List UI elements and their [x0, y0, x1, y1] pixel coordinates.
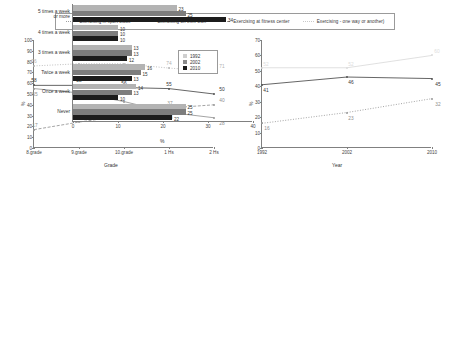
bar-value-label: 10 — [119, 32, 125, 37]
x-tick-mark — [79, 147, 80, 149]
bar-x-axis-title: % — [160, 138, 164, 144]
data-label: 32 — [435, 101, 440, 106]
bar-value-label: 13 — [133, 91, 139, 96]
bar-category-label: 4 times a week — [0, 31, 73, 36]
bar-group: 5 times a week or more232534 — [73, 4, 252, 24]
plot-area: 0102030405060701992200220105252604146451… — [261, 40, 431, 148]
bar-category-label: Never — [0, 109, 73, 114]
bar-1992 — [73, 84, 136, 89]
data-label: 41 — [263, 87, 268, 92]
x-tick-mark — [432, 147, 433, 149]
bar-2002 — [73, 31, 118, 36]
y-tick-mark — [260, 86, 262, 87]
bar-value-label: 13 — [133, 51, 139, 56]
y-tick-mark — [260, 55, 262, 56]
bar-value-label: 22 — [173, 116, 179, 121]
y-tick-mark — [32, 116, 34, 117]
grade-y-axis-title: % — [20, 102, 26, 106]
data-point — [261, 122, 263, 124]
y-tick-mark — [260, 117, 262, 118]
data-point — [261, 67, 263, 69]
bar-1992 — [73, 45, 132, 50]
plot-area: 0102030405 times a week or more2325344 t… — [72, 4, 252, 122]
y-tick-mark — [260, 71, 262, 72]
bar-value-label: 10 — [119, 96, 125, 101]
bar-1992 — [73, 64, 145, 69]
bar-value-label: 10 — [119, 26, 125, 31]
y-tick-mark — [260, 133, 262, 134]
y-tick-mark — [32, 105, 34, 106]
bar-value-label: 13 — [133, 77, 139, 82]
legend-label: Exercising - one way or another) — [317, 19, 385, 24]
x-tick-mark — [347, 147, 348, 149]
faint-dotted-line-icon — [303, 20, 314, 24]
bar-2010 — [73, 115, 172, 120]
bar-value-label: 14 — [137, 85, 143, 90]
y-tick-mark — [260, 40, 262, 41]
bar-2010 — [73, 36, 118, 41]
y-tick-mark — [260, 102, 262, 103]
bar-group: 3 times a week131312 — [73, 43, 252, 63]
legend-label: 2010 — [190, 66, 200, 71]
bar-1992 — [73, 25, 118, 30]
data-point — [431, 78, 433, 80]
data-point — [431, 98, 433, 100]
swatch-icon — [183, 66, 187, 70]
data-label: 58 — [31, 78, 36, 83]
data-point — [33, 129, 35, 131]
data-label: 60 — [434, 49, 439, 54]
x-tick-mark — [253, 121, 254, 123]
bar-value-label: 10 — [119, 37, 125, 42]
bar-2010 — [73, 17, 226, 22]
bar-category-label: 5 times a week or more — [0, 8, 73, 19]
data-label: 52 — [263, 61, 268, 66]
y-tick-mark — [32, 137, 34, 138]
bar-group: Never252522 — [73, 102, 252, 122]
data-label: 52 — [348, 61, 353, 66]
x-tick-mark — [34, 147, 35, 149]
swatch-icon — [183, 60, 187, 64]
data-label: 23 — [348, 115, 353, 120]
bar-1992 — [73, 104, 186, 109]
bar-category-label: Once a week — [0, 90, 73, 95]
bar-2002 — [73, 70, 141, 75]
legend-label: 1992 — [190, 54, 200, 59]
bar-category-label: Twice a week — [0, 70, 73, 75]
data-point — [261, 84, 263, 86]
year-line-chart: 0102030405060701992200220105252604146451… — [228, 34, 450, 174]
bar-2010 — [73, 76, 132, 81]
bar-value-label: 25 — [187, 110, 193, 115]
bar-group: Twice a week161513 — [73, 63, 252, 83]
data-label: 17 — [32, 122, 37, 127]
x-tick-mark — [214, 147, 215, 149]
data-point — [33, 84, 35, 86]
bar-2002 — [73, 90, 132, 95]
series-line — [262, 77, 432, 85]
x-tick-mark — [124, 147, 125, 149]
bar-value-label: 16 — [146, 66, 152, 71]
bar-group: Once a week141310 — [73, 83, 252, 103]
year-legend: 1992 2002 2010 — [178, 50, 218, 74]
legend-label: 2002 — [190, 60, 200, 65]
data-point — [431, 54, 433, 56]
data-label: 46 — [348, 80, 353, 85]
bar-2002 — [73, 109, 186, 114]
bar-2010 — [73, 95, 118, 100]
bar-category-label: 3 times a week — [0, 50, 73, 55]
swatch-icon — [183, 54, 187, 58]
data-label: 76 — [31, 58, 36, 63]
bar-2002 — [73, 50, 132, 55]
year-x-axis-title: Year — [332, 162, 342, 168]
year-series-lines — [262, 40, 432, 148]
bar-value-label: 15 — [142, 71, 148, 76]
data-label: 45 — [435, 81, 440, 86]
bar-value-label: 12 — [128, 57, 134, 62]
grade-x-axis-title: Grade — [104, 162, 118, 168]
data-point — [346, 67, 348, 69]
bar-2002 — [73, 11, 186, 16]
bar-value-label: 13 — [133, 46, 139, 51]
bar-group: 4 times a week101010 — [73, 24, 252, 44]
data-point — [33, 65, 35, 67]
legend-item-one-way-or-another: Exercising - one way or another) — [303, 19, 385, 24]
bar-value-label: 25 — [187, 105, 193, 110]
